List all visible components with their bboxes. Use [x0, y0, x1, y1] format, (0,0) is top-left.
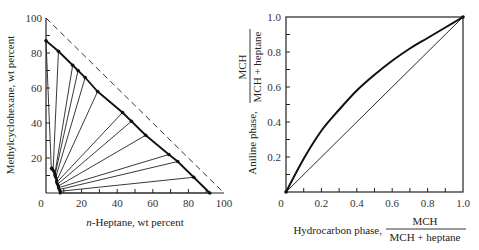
data-point: [83, 76, 87, 80]
right-x-axis-title-prefix: Hydrocarbon phase,: [293, 224, 382, 236]
data-point: [121, 111, 125, 115]
data-point: [71, 63, 75, 67]
y-tick-label: 80: [31, 47, 43, 59]
data-point: [130, 119, 134, 123]
y-tick-label: 0.4: [267, 116, 281, 128]
y-tick-label: 100: [26, 12, 43, 24]
dashed-line: [46, 18, 224, 193]
x-tick-label: 0.8: [421, 197, 435, 209]
data-point: [208, 191, 212, 195]
left-ticks: [46, 36, 206, 194]
y-tick-label: 0.8: [267, 46, 281, 58]
tie-line: [53, 51, 58, 170]
tie-line: [58, 135, 145, 186]
y-tick-label: 0.2: [267, 151, 281, 163]
tie-line: [58, 155, 168, 188]
data-point: [192, 175, 196, 179]
data-point: [176, 160, 180, 164]
data-point: [167, 153, 171, 157]
tie-line: [46, 41, 51, 169]
left-x-axis-title: n-Heptane, wt percent: [86, 216, 183, 228]
right-origin-label: 0: [278, 197, 284, 209]
ternary-tie-line-chart: 2040608010020406080100 0 n-Heptane, wt p…: [4, 12, 233, 228]
x-tick-label: 80: [183, 197, 195, 209]
right-y-axis-title: Aniline phase, MCH MCH + heptane: [236, 29, 263, 175]
figure: 2040608010020406080100 0 n-Heptane, wt p…: [0, 0, 479, 250]
data-point: [54, 176, 57, 179]
x-tick-label: 40: [112, 197, 124, 209]
x-tick-label: 20: [76, 197, 88, 209]
right-y-axis-title-prefix: Aniline phase,: [246, 111, 258, 175]
left-origin-label: 0: [38, 197, 44, 209]
y-tick-label: 0.6: [267, 81, 281, 93]
right-x-frac-denominator: MCH + heptane: [390, 231, 461, 243]
y-tick-label: 40: [31, 117, 43, 129]
right-series: [284, 15, 465, 194]
data-point: [284, 190, 288, 194]
data-point: [96, 90, 100, 94]
x-tick-label: 0.4: [350, 197, 364, 209]
data-point: [76, 69, 80, 73]
x-tick-label: 0.2: [315, 197, 329, 209]
tie-line: [55, 65, 73, 174]
y-tick-label: 20: [31, 152, 43, 164]
x-tick-label: 100: [216, 197, 233, 209]
data-point: [52, 169, 55, 172]
data-point: [44, 39, 48, 43]
left-y-axis-title: Methylcyclohexane, wt percent: [4, 36, 16, 174]
data-point: [461, 15, 465, 19]
equilibrium-curve-chart: 0.20.40.60.81.00.20.40.60.81.0 0 Hydroca…: [236, 11, 470, 243]
data-point: [57, 49, 61, 53]
x-tick-label: 60: [147, 197, 159, 209]
diagonal-line: [286, 17, 463, 192]
hydrocarbon-phase-boundary: [46, 41, 210, 193]
right-x-frac-numerator: MCH: [412, 215, 437, 227]
phase-boundary: [46, 41, 210, 193]
x-tick-label: 0.6: [385, 197, 399, 209]
y-tick-label: 60: [31, 82, 43, 94]
data-point: [144, 133, 148, 137]
dashed-hypotenuse: [46, 18, 224, 193]
right-y-frac-denominator: MCH + heptane: [251, 31, 263, 102]
x-tick-label: 1.0: [456, 197, 470, 209]
right-y-frac-numerator: MCH: [236, 54, 248, 79]
y-tick-label: 1.0: [267, 11, 281, 23]
data-point: [59, 191, 62, 194]
